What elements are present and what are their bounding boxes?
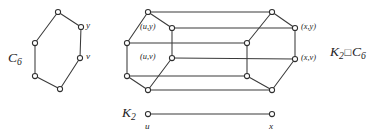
graph-vertex (244, 40, 249, 45)
k2-letter: K (122, 105, 131, 120)
graph-vertex (32, 73, 37, 78)
k2-vertex-label-x: x (269, 122, 273, 131)
graph-vertex (292, 56, 297, 61)
prism-vertex-label-xv: (x,v) (301, 54, 316, 62)
graph-edge (272, 12, 295, 28)
product-c-subscript: 6 (361, 50, 366, 61)
prism-vertex-label-uy: (u,y) (140, 23, 156, 31)
graph-edge (35, 12, 58, 43)
product-k2-box-c6-label: K2□C6 (330, 45, 366, 60)
graph-vertex (32, 40, 37, 45)
graph-vertex (269, 111, 274, 116)
graph-vertex (269, 9, 274, 14)
cycle-c6-label: C6 (8, 51, 22, 66)
graph-edge (272, 59, 295, 90)
product-c-letter: C (352, 44, 361, 59)
box-product-operator-icon: □ (344, 46, 352, 58)
graph-edge (127, 76, 148, 90)
graph-vertex (145, 9, 150, 14)
graph-edge (58, 12, 81, 27)
graph-vertex (169, 25, 174, 30)
graph-edge (80, 27, 81, 58)
graph-vertex (145, 87, 150, 92)
graph-edge (35, 76, 60, 89)
figure-root: C6 y v (u,y) (u,v) (x,y) (x,v) K2□C6 K2 … (0, 0, 388, 137)
graph-edge (60, 58, 80, 89)
graph-vertex (269, 87, 274, 92)
vertices-layer (32, 9, 297, 116)
k2-subscript: 2 (131, 111, 136, 122)
graph-edge (247, 76, 272, 90)
prism-vertex-label-xy: (x,y) (301, 23, 316, 31)
cycle-c6-letter: C (8, 50, 17, 65)
graph-vertex (78, 24, 83, 29)
graph-vertex (124, 73, 129, 78)
graph-vertex (292, 25, 297, 30)
product-k-letter: K (330, 44, 339, 59)
graph-vertex (77, 55, 82, 60)
cycle-c6-subscript: 6 (17, 56, 22, 67)
prism-vertex-label-uv: (u,v) (140, 53, 156, 61)
cycle-vertex-label-v: v (86, 52, 90, 61)
k2-vertex-label-u: u (145, 122, 150, 131)
graph-vertex (124, 40, 129, 45)
graph-vertex (145, 111, 150, 116)
graph-edge (172, 58, 295, 59)
graph-vertex (55, 9, 60, 14)
graph-canvas (0, 0, 388, 137)
cycle-vertex-label-y: y (86, 21, 90, 30)
graph-vertex (244, 73, 249, 78)
k2-graph-label: K2 (122, 106, 136, 121)
graph-edge (148, 58, 172, 90)
graph-vertex (57, 86, 62, 91)
edges-layer (35, 12, 295, 114)
graph-vertex (169, 55, 174, 60)
